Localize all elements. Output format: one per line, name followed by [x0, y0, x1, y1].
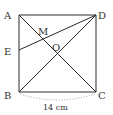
- geometry-diagram: A D E B C M O 14 cm: [0, 0, 113, 115]
- label-c: C: [98, 90, 106, 101]
- dimension-label-bc: 14 cm: [43, 103, 68, 112]
- square-figure: A D E B C M O 14 cm: [0, 0, 113, 115]
- label-e: E: [4, 46, 11, 57]
- label-d: D: [98, 10, 106, 21]
- dimension-arc-bc: [20, 94, 95, 100]
- label-a: A: [3, 10, 12, 21]
- label-m: M: [38, 26, 48, 37]
- label-o: O: [52, 42, 60, 53]
- label-b: B: [4, 90, 11, 101]
